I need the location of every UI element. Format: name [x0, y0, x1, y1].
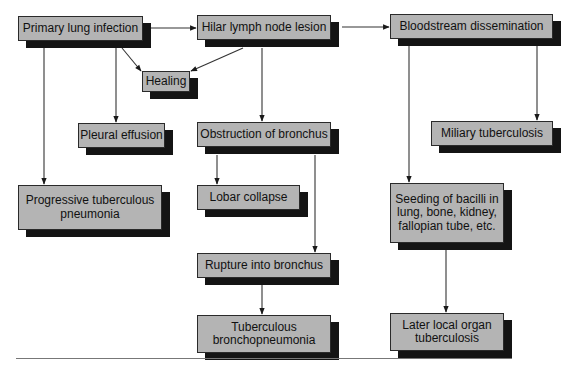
node-miliary: Miliary tuberculosis — [431, 121, 553, 146]
node-hilar: Hilar lymph node lesion — [197, 15, 331, 40]
node-lobar: Lobar collapse — [197, 185, 300, 210]
node-seeding: Seeding of bacilli in lung, bone, kidney… — [390, 183, 504, 243]
node-blood: Bloodstream dissemination — [390, 14, 553, 39]
arrow-primary-to-healing — [122, 48, 141, 71]
node-healing: Healing — [142, 71, 190, 92]
node-progressive: Progressive tuberculous pneumonia — [18, 185, 162, 230]
node-primary: Primary lung infection — [18, 16, 143, 41]
bottom-rule-divider — [16, 358, 512, 359]
arrow-hilar-to-healing — [191, 48, 243, 71]
node-obstruction: Obstruction of bronchus — [197, 122, 331, 147]
node-rupture: Rupture into bronchus — [197, 253, 331, 278]
node-tbbronch: Tuberculous bronchopneumonia — [197, 315, 331, 353]
node-later: Later local organ tuberculosis — [390, 313, 504, 351]
node-pleural: Pleural effusion — [78, 123, 165, 148]
